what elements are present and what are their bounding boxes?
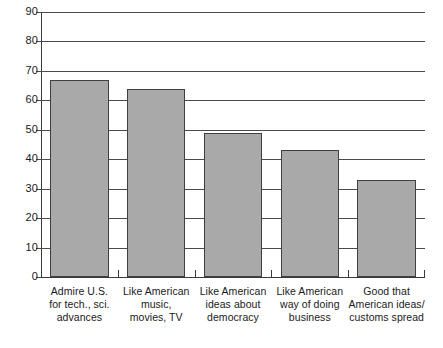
y-tick-label-text: 10	[4, 242, 38, 253]
gridline-90	[41, 12, 425, 13]
y-tick-label-text: 60	[4, 94, 38, 105]
x-axis-label: Like American music, movies, TV	[114, 285, 199, 325]
x-axis-line	[41, 277, 425, 278]
y-tick-label-50: 50	[0, 124, 38, 135]
bar	[204, 133, 262, 277]
bar-chart: 9080706050403020100 Admire U.S. for tech…	[0, 0, 443, 348]
y-tick-label-text: 70	[4, 65, 38, 76]
y-tick-label-text: 80	[4, 35, 38, 46]
category-tick	[348, 270, 349, 277]
bar	[281, 150, 339, 277]
x-axis-label: Like American ideas about democracy	[191, 285, 276, 325]
category-tick	[424, 270, 425, 277]
category-tick	[118, 270, 119, 277]
bar	[357, 180, 415, 277]
y-tick-label-40: 40	[0, 153, 38, 164]
y-tick-label-10: 10	[0, 242, 38, 253]
y-tick-label-text: 50	[4, 124, 38, 135]
x-axis-label: Admire U.S. for tech., sci. advances	[37, 285, 122, 325]
bar	[127, 89, 185, 277]
y-tick-label-60: 60	[0, 94, 38, 105]
y-tick-label-0: 0	[0, 271, 38, 282]
gridline-70	[41, 71, 425, 72]
y-tick-label-30: 30	[0, 183, 38, 194]
y-tick-label-text: 30	[4, 183, 38, 194]
gridline-80	[41, 41, 425, 42]
y-tick-label-70: 70	[0, 65, 38, 76]
x-axis-label: Like American way of doing business	[267, 285, 352, 325]
y-tick-label-90: 90	[0, 6, 38, 17]
y-tick-label-text: 0	[4, 271, 38, 282]
category-tick	[271, 270, 272, 277]
y-tick-label-text: 20	[4, 212, 38, 223]
y-tick-label-80: 80	[0, 35, 38, 46]
bar	[50, 80, 108, 277]
x-axis-label: Good that American ideas/ customs spread	[344, 285, 429, 325]
y-tick-label-20: 20	[0, 212, 38, 223]
y-tick-label-text: 90	[4, 6, 38, 17]
category-tick	[195, 270, 196, 277]
y-tick-label-text: 40	[4, 153, 38, 164]
